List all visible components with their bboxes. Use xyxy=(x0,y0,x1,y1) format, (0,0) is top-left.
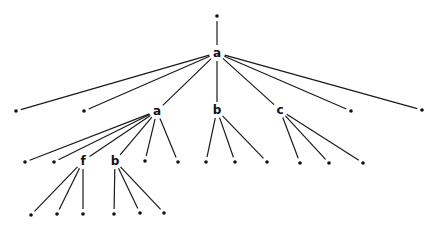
tree-node-dot xyxy=(420,108,424,112)
tree-node-dot xyxy=(52,160,56,164)
tree-edge xyxy=(89,56,210,109)
tree-node-dot xyxy=(204,160,208,164)
tree-edge xyxy=(223,58,274,104)
tree-node-dot xyxy=(23,160,27,164)
tree-node-dot xyxy=(233,160,237,164)
tree-node-dot xyxy=(215,14,219,18)
tree-edge xyxy=(224,56,346,109)
tree-node-dot xyxy=(82,109,86,113)
tree-edge xyxy=(35,167,78,212)
tree-edge xyxy=(90,116,151,157)
tree-edge xyxy=(21,55,210,109)
tree-diagram: aabcfb xyxy=(0,0,432,231)
tree-node-dot xyxy=(112,212,116,216)
tree-edge xyxy=(285,116,325,159)
tree-node-dot xyxy=(14,109,18,113)
tree-node-label: c xyxy=(276,103,283,117)
tree-node-dot xyxy=(29,213,33,217)
tree-node-label: a xyxy=(213,46,221,60)
tree-node-label: a xyxy=(153,104,161,118)
tree-node-dot xyxy=(265,160,269,164)
tree-node-dot xyxy=(298,161,302,165)
tree-node-dot xyxy=(349,109,353,113)
tree-node-label: f xyxy=(80,154,86,168)
tree-node-label: b xyxy=(111,154,120,168)
tree-edge xyxy=(287,114,359,160)
tree-edge xyxy=(225,55,418,109)
tree-edge xyxy=(146,119,155,156)
tree-edge xyxy=(30,114,150,160)
tree-edge xyxy=(207,118,215,157)
tree-node-dot xyxy=(81,212,85,216)
tree-edge xyxy=(283,118,298,159)
tree-edge xyxy=(114,169,115,209)
tree-edge xyxy=(223,116,264,159)
tree-node-dot xyxy=(176,160,180,164)
tree-edge xyxy=(59,115,150,160)
tree-node-dot xyxy=(138,211,142,215)
tree-node-label: b xyxy=(213,103,222,117)
tree-node-dot xyxy=(361,161,365,165)
tree-node-dot xyxy=(327,161,331,165)
tree-node-dot xyxy=(143,159,147,163)
tree-node-dot xyxy=(55,212,59,216)
tree-edge xyxy=(121,167,161,210)
tree-edge xyxy=(220,118,234,158)
tree-node-dot xyxy=(162,211,166,215)
tree-edge xyxy=(160,118,176,157)
tree-edge xyxy=(120,117,152,155)
nodes-group: aabcfb xyxy=(14,14,424,217)
